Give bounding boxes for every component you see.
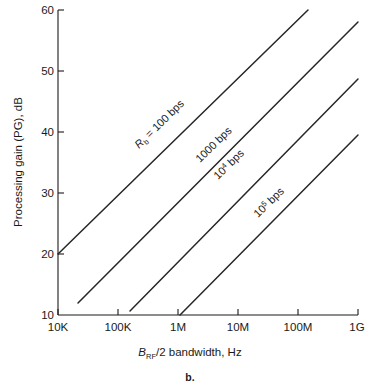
curve-1000bps bbox=[78, 22, 358, 303]
curve-label-rb-100bps: Rb = 100 bps bbox=[132, 97, 188, 152]
y-tick-label-10: 10 bbox=[41, 309, 54, 321]
figure-caption: b. bbox=[185, 371, 194, 383]
axes bbox=[58, 10, 358, 315]
y-tick-label-20: 20 bbox=[41, 248, 54, 260]
x-axis-title: BRF/2 bandwidth, Hz bbox=[138, 346, 242, 361]
figure-container: 60 50 40 30 20 10 10K 100K 1M 10M 100M 1… bbox=[0, 0, 375, 390]
x-tick-label-1m: 1M bbox=[170, 321, 186, 333]
y-tick-label-30: 30 bbox=[41, 187, 54, 199]
curve-rb-100bps bbox=[58, 10, 308, 254]
x-axis-tick-labels: 10K 100K 1M 10M 100M 1G bbox=[48, 321, 365, 333]
curve-label-10e5bps: 105 bps bbox=[251, 184, 287, 219]
x-axis-title-subscript: RF bbox=[146, 352, 156, 361]
x-tick-label-100k: 100K bbox=[105, 321, 132, 333]
y-tick-label-40: 40 bbox=[41, 126, 54, 138]
x-tick-label-10k: 10K bbox=[48, 321, 69, 333]
x-axis-ticks bbox=[58, 309, 358, 315]
data-curves bbox=[58, 10, 358, 315]
y-tick-label-50: 50 bbox=[41, 65, 54, 77]
processing-gain-chart: 60 50 40 30 20 10 10K 100K 1M 10M 100M 1… bbox=[0, 0, 375, 390]
y-axis-title: Processing gain (PG), dB bbox=[12, 97, 24, 227]
y-tick-label-60: 60 bbox=[41, 4, 54, 16]
y-axis-ticks bbox=[58, 10, 64, 254]
x-tick-label-100m: 100M bbox=[284, 321, 313, 333]
x-tick-label-1g: 1G bbox=[349, 321, 364, 333]
curve-10e5bps bbox=[180, 135, 358, 315]
y-axis-tick-labels: 60 50 40 30 20 10 bbox=[41, 4, 54, 321]
x-axis-title-rest: /2 bandwidth, Hz bbox=[156, 346, 242, 358]
x-tick-label-10m: 10M bbox=[227, 321, 249, 333]
